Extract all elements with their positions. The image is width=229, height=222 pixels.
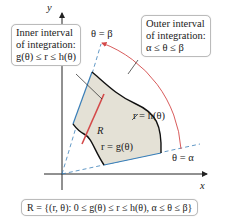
region-definition: R = {(r, θ): 0 ≤ g(θ) ≤ r ≤ h(θ), α ≤ θ … — [21, 199, 198, 216]
beta-ray-label: θ = β — [91, 29, 113, 40]
outer-curve-label: r = h(θ) — [133, 111, 165, 122]
region-label: R — [97, 126, 103, 137]
outer-interval-callout: Outer interval of integration: α ≤ θ ≤ β — [141, 15, 211, 57]
y-axis-label: y — [47, 3, 52, 14]
inner-interval-callout: Inner interval of integration: g(θ) ≤ r … — [11, 24, 81, 66]
alpha-ray-label: θ = α — [172, 153, 194, 164]
x-axis-label: x — [200, 181, 205, 192]
inner-curve-label: r = g(θ) — [101, 142, 133, 153]
